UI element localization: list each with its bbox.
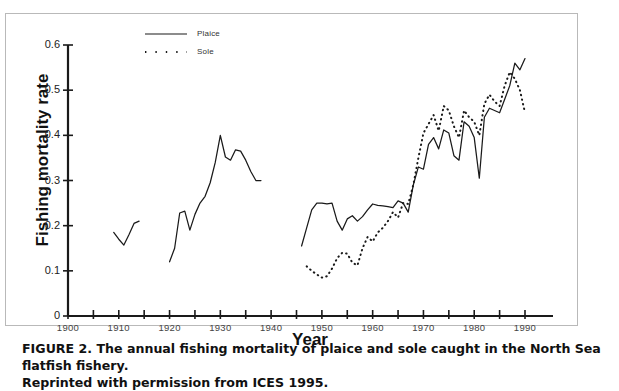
- legend-label-plaice: Plaice: [197, 29, 220, 38]
- x-tick-label: 1970: [403, 322, 443, 333]
- series-line-plaice: [114, 221, 139, 245]
- x-tick-label: 1990: [505, 322, 545, 333]
- y-axis-title: Fishing mortality rate: [33, 45, 53, 275]
- y-tick-label: 0.1: [20, 264, 60, 276]
- y-tick-label: 0.6: [20, 38, 60, 50]
- figure-caption: FIGURE 2. The annual fishing mortality o…: [22, 340, 602, 391]
- x-tick-label: 1960: [353, 322, 393, 333]
- y-tick-label: 0.2: [20, 219, 60, 231]
- x-tick-label: 1900: [48, 322, 88, 333]
- legend-label-sole: Sole: [197, 47, 214, 56]
- y-tick-label: 0.4: [20, 128, 60, 140]
- series-line-plaice: [170, 135, 261, 261]
- y-tick-label: 0: [20, 309, 60, 321]
- y-tick-label: 0.5: [20, 83, 60, 95]
- x-tick-label: 1910: [99, 322, 139, 333]
- caption-line-2: Reprinted with permission from ICES 1995…: [22, 374, 602, 391]
- line-chart-plot: [0, 0, 619, 340]
- caption-line-1: FIGURE 2. The annual fishing mortality o…: [22, 340, 602, 374]
- x-tick-label: 1950: [302, 322, 342, 333]
- y-tick-label: 0.3: [20, 174, 60, 186]
- series-line-plaice: [302, 59, 525, 246]
- x-tick-label: 1930: [200, 322, 240, 333]
- x-tick-label: 1980: [454, 322, 494, 333]
- x-tick-label: 1940: [251, 322, 291, 333]
- x-tick-label: 1920: [150, 322, 190, 333]
